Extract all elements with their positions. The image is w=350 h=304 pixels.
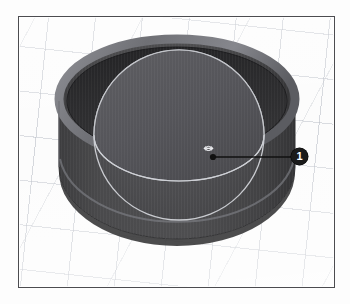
illustration-canvas: 1 [0, 0, 350, 304]
sphere [94, 50, 264, 220]
scene-geometry [19, 17, 335, 288]
figure-frame: 1 [18, 16, 335, 288]
viewport-scene [19, 17, 334, 287]
callout-leader-dot [210, 154, 216, 160]
